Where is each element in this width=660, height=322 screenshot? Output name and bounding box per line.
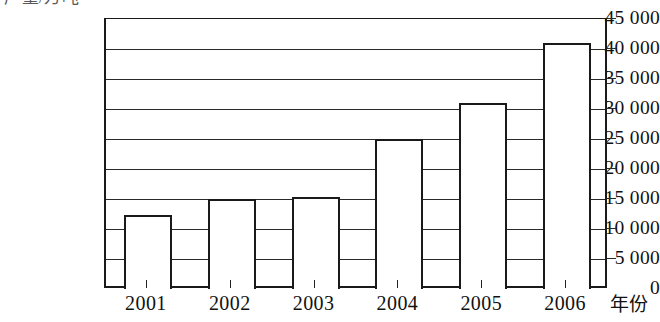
- x-axis-tick-label: 2002: [185, 292, 275, 314]
- plot-area: [104, 18, 607, 288]
- gridline: [106, 259, 605, 260]
- gridline-stub: [607, 18, 616, 19]
- gridline-stub: [607, 198, 616, 199]
- bar: [208, 199, 256, 289]
- gridline: [106, 79, 605, 80]
- x-axis-tick: [230, 280, 231, 288]
- gridline-stub: [607, 138, 616, 139]
- gridline: [106, 229, 605, 230]
- gridline-stub: [607, 258, 616, 259]
- bar: [124, 215, 172, 289]
- bar: [543, 43, 591, 289]
- x-axis-tick-label: 2004: [352, 292, 442, 314]
- gridline: [106, 49, 605, 50]
- gridline-stub: [607, 108, 616, 109]
- gridline-stub: [607, 228, 616, 229]
- gridline-stub: [607, 168, 616, 169]
- gridline: [106, 169, 605, 170]
- gridline-stub: [607, 78, 616, 79]
- gridline: [106, 199, 605, 200]
- x-axis-tick: [565, 280, 566, 288]
- bar: [292, 197, 340, 289]
- gridline: [106, 109, 605, 110]
- x-axis-tick-label: 2006: [520, 292, 610, 314]
- bar-chart: 05 00010 00015 00020 00025 00030 00035 0…: [0, 0, 660, 322]
- x-axis-tick: [481, 280, 482, 288]
- x-axis-title: 年份: [610, 293, 648, 315]
- gridline-stub: [607, 48, 616, 49]
- x-axis-tick: [146, 280, 147, 288]
- gridline: [106, 139, 605, 140]
- x-axis-tick-label: 2003: [269, 292, 359, 314]
- x-axis-tick-label: 2001: [101, 292, 191, 314]
- bar: [459, 103, 507, 289]
- x-axis-tick: [397, 280, 398, 288]
- x-axis-tick: [314, 280, 315, 288]
- x-axis-tick-label: 2005: [436, 292, 526, 314]
- bar: [375, 139, 423, 289]
